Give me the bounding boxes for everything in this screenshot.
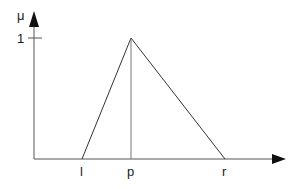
triangle-membership-curve: [82, 38, 225, 159]
y-tick-label: 1: [17, 31, 24, 46]
x-label-r: r: [222, 164, 227, 179]
x-axis-arrow-icon: [272, 154, 286, 164]
x-label-p: p: [127, 164, 134, 179]
x-label-l: l: [80, 164, 83, 179]
y-axis-label: μ: [17, 8, 25, 23]
membership-diagram: μ 1 l p r: [0, 0, 300, 189]
y-axis-arrow-icon: [29, 11, 39, 27]
